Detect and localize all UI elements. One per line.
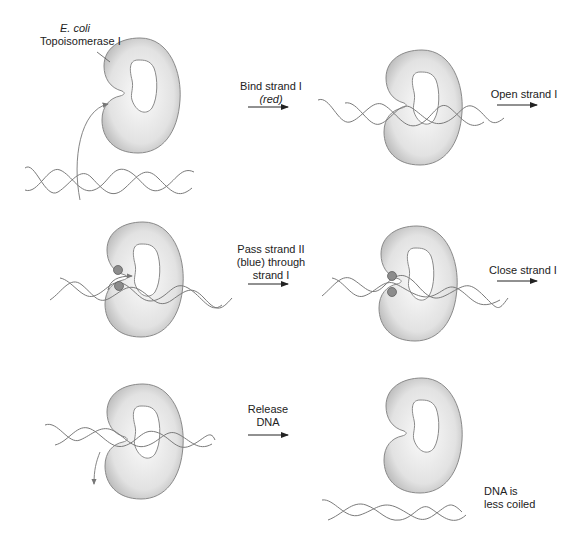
active-site-upper [388, 272, 397, 281]
step-label-bind: Bind strand I (red) [236, 80, 306, 106]
active-site-upper [114, 266, 123, 275]
active-site-lower [388, 288, 397, 297]
enzyme-step6 [384, 378, 462, 493]
step-label-pass: Pass strand II (blue) through strand I [232, 243, 310, 282]
step-label-open: Open strand I [484, 88, 564, 101]
dna-helix-step1 [25, 167, 194, 194]
enzyme-step2 [384, 50, 462, 165]
enzyme-label: E. coli Topoisomerase I [40, 22, 110, 48]
enzyme-name: Topoisomerase I [40, 35, 110, 48]
release-arrow [94, 452, 100, 484]
enzyme-step4 [379, 226, 457, 341]
active-site-lower [115, 282, 124, 291]
step-label-close: Close strand I [478, 264, 568, 277]
enzyme-organism: E. coli [40, 22, 110, 35]
enzyme-step3 [105, 222, 183, 337]
step-label-release: Release DNA [238, 403, 298, 429]
enzyme-step1 [102, 38, 180, 153]
result-label: DNA is less coiled [484, 485, 535, 511]
dna-helix-relaxed [322, 500, 466, 520]
